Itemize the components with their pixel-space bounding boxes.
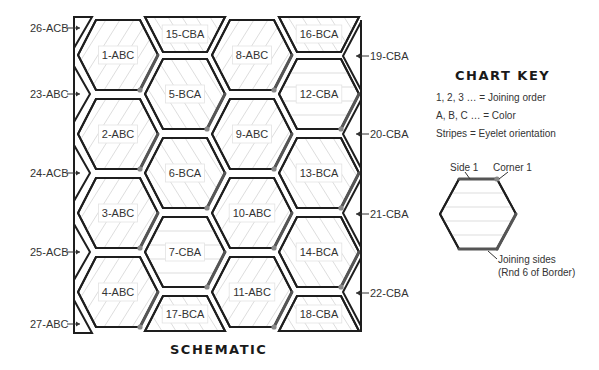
piece-label: 4-ABC	[102, 286, 134, 298]
piece-label: 10-ABC	[233, 207, 272, 219]
corner-dot	[204, 126, 209, 131]
piece-label: 16-BCA	[300, 28, 339, 40]
arrow-left-icon	[356, 291, 360, 296]
piece-label: 17-BCA	[166, 308, 205, 320]
svg-text:22-CBA: 22-CBA	[370, 287, 409, 299]
piece-label: 9-ABC	[236, 128, 268, 140]
arrow-right-icon	[76, 26, 80, 31]
corner-dot	[338, 126, 343, 131]
left-label-24-ACB: 24-ACB	[30, 167, 80, 179]
key-side-1-label: Side 1	[450, 162, 478, 174]
arrow-left-icon	[356, 132, 360, 137]
svg-text:24-ACB: 24-ACB	[30, 167, 69, 179]
key-joining-sides-label: Joining sides	[498, 254, 556, 266]
corner-dot	[271, 87, 276, 92]
piece-label: 6-BCA	[169, 167, 202, 179]
key-rnd6-label: (Rnd 6 of Border)	[498, 267, 575, 279]
corner-dot	[271, 324, 276, 329]
right-label-20-CBA: 20-CBA	[356, 128, 409, 140]
piece-label: 1-ABC	[102, 49, 134, 61]
key-color: A, B, C … = Color	[436, 110, 516, 121]
corner-dot	[137, 245, 142, 250]
svg-text:19-CBA: 19-CBA	[370, 50, 409, 62]
piece-label: 5-BCA	[169, 88, 202, 100]
chart-key-hexagon	[438, 172, 518, 259]
corner-dot	[271, 166, 276, 171]
piece-label: 18-CBA	[300, 308, 339, 320]
hexagon-12-CBA: 12-CBA	[279, 59, 359, 132]
key-corner-1-label: Corner 1	[493, 162, 532, 174]
left-label-25-ACB: 25-ACB	[30, 246, 80, 258]
chart-key-title: CHART KEY	[455, 68, 550, 83]
piece-label: 7-CBA	[169, 246, 202, 258]
key-stripes: Stripes = Eyelet orientation	[436, 128, 556, 139]
right-label-22-CBA: 22-CBA	[356, 287, 409, 299]
right-label-19-CBA: 19-CBA	[356, 50, 409, 62]
hexagon-7-CBA: 7-CBA	[145, 217, 225, 290]
piece-label: 3-ABC	[102, 207, 134, 219]
arrow-right-icon	[76, 171, 80, 176]
key-corner-1-dot	[494, 176, 499, 181]
arrow-right-icon	[76, 250, 80, 255]
corner-dot	[204, 284, 209, 289]
arrow-right-icon	[76, 92, 80, 97]
key-hexagon	[440, 179, 516, 249]
arrow-left-icon	[356, 212, 360, 217]
corner-dot	[137, 87, 142, 92]
corner-dot	[338, 284, 343, 289]
piece-label: 14-BCA	[300, 246, 339, 258]
piece-label: 13-BCA	[300, 167, 339, 179]
piece-label: 12-CBA	[300, 88, 339, 100]
corner-dot	[137, 166, 142, 171]
svg-text:20-CBA: 20-CBA	[370, 128, 409, 140]
joining-sides-pointer	[488, 251, 497, 259]
piece-label: 11-ABC	[233, 286, 271, 298]
arrow-right-icon	[76, 322, 80, 327]
svg-text:26-ACB: 26-ACB	[30, 22, 69, 34]
corner-dot	[338, 205, 343, 210]
piece-label: 8-ABC	[236, 49, 268, 61]
corner-dot	[271, 245, 276, 250]
left-label-27-ABC: 27-ABC	[30, 318, 80, 330]
schematic-diagram: 1-ABC2-ABC3-ABC4-ABC5-BCA6-BCA7-CBA8-ABC…	[0, 0, 599, 370]
right-label-21-CBA: 21-CBA	[356, 208, 409, 220]
corner-dot	[204, 205, 209, 210]
piece-label: 15-CBA	[166, 28, 205, 40]
corner-dot	[137, 324, 142, 329]
left-label-26-ACB: 26-ACB	[30, 22, 80, 34]
svg-text:25-ACB: 25-ACB	[30, 246, 69, 258]
arrow-left-icon	[356, 54, 360, 59]
left-label-23-ABC: 23-ABC	[30, 88, 80, 100]
svg-text:23-ABC: 23-ABC	[30, 88, 69, 100]
key-joining-order: 1, 2, 3 … = Joining order	[436, 92, 546, 103]
piece-label: 2-ABC	[102, 128, 134, 140]
svg-text:21-CBA: 21-CBA	[370, 208, 409, 220]
svg-text:27-ABC: 27-ABC	[30, 318, 69, 330]
schematic-title: SCHEMATIC	[170, 342, 267, 357]
